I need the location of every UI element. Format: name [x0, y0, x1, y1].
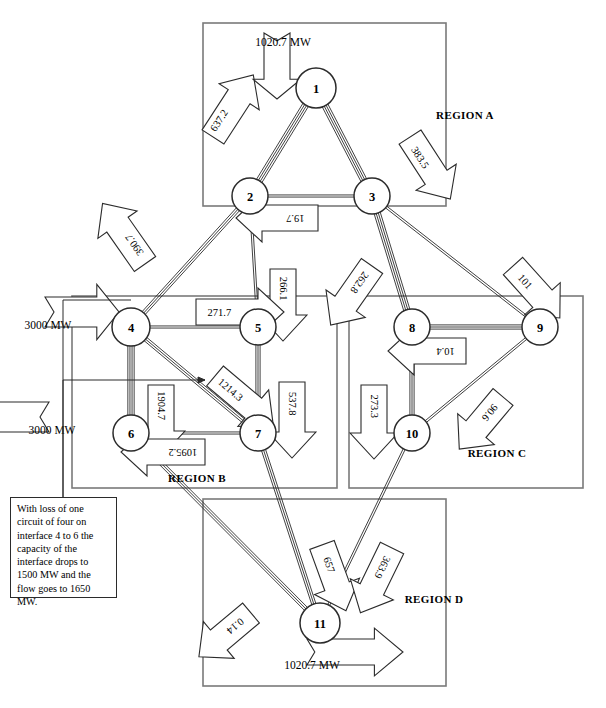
bus-node-8[interactable]: 8	[394, 309, 430, 345]
bus-number-label: 7	[255, 427, 261, 441]
boundary-flow-label-export-6: 3000 MW	[29, 424, 76, 436]
transmission-lines-layer	[128, 103, 528, 611]
bus-node-2[interactable]: 2	[232, 178, 268, 214]
circuit-line	[374, 213, 404, 311]
bus-number-label: 5	[255, 321, 261, 335]
transmission-branch-8-9	[429, 325, 523, 329]
transmission-branch-1-3	[322, 103, 367, 182]
circuit-line	[380, 211, 410, 309]
power-system-diagram: 637.2383.519.7390.7266.1262.8101271.7121…	[0, 0, 606, 708]
flow-value-9-to-8: 10.4	[436, 346, 455, 357]
circuit-line	[328, 103, 367, 179]
bus-node-7[interactable]: 7	[240, 415, 276, 451]
circuit-line	[256, 103, 303, 180]
arrow-shape	[339, 538, 414, 624]
bus-number-label: 9	[537, 321, 543, 335]
circuit-line	[258, 104, 305, 181]
transmission-branch-4-5	[149, 326, 241, 328]
flow-arrow-1-to-2	[193, 62, 273, 150]
bus-number-label: 6	[128, 427, 134, 441]
flow-value-text: 266.1	[278, 277, 289, 301]
bus-number-label: 8	[409, 321, 415, 335]
bus-number-label: 3	[369, 190, 375, 204]
flow-arrow-1-to-3	[390, 124, 470, 212]
region-label-d: REGION D	[405, 593, 464, 605]
boundary-flow-label-inject-1: 1020.7 MW	[255, 36, 311, 48]
contingency-note-text: With loss of one circuit of four on inte…	[17, 503, 93, 607]
flow-value-text: 19.7	[286, 213, 304, 224]
arrow-shape	[193, 62, 273, 150]
flow-value-text: 273.3	[369, 394, 380, 418]
bus-node-4[interactable]: 4	[112, 308, 150, 346]
flow-value-8-to-10: 273.3	[369, 394, 380, 418]
flow-value-text: 1904.7	[156, 391, 167, 420]
flow-arrow-6-to-11	[184, 595, 267, 675]
circuit-line	[261, 450, 312, 606]
bus-node-11[interactable]: 11	[300, 603, 340, 643]
region-label-a: REGION A	[436, 109, 494, 121]
flow-arrow-10-to-11	[339, 538, 414, 624]
transmission-branch-7-11	[261, 449, 316, 606]
circuit-line	[322, 106, 361, 182]
boundary-flow-import-4	[45, 284, 119, 339]
circuit-line	[385, 207, 526, 317]
flow-arrow-2-to-4	[83, 190, 165, 278]
circuit-line	[260, 105, 307, 182]
flow-value-5-to-7: 537.8	[287, 392, 298, 416]
boundary-arrow-shape	[45, 284, 119, 339]
transmission-branch-1-2	[256, 103, 309, 184]
boundary-flow-label-export-11: 1020.7 MW	[284, 659, 340, 671]
flow-value-text: 1095.2	[168, 447, 197, 458]
circuit-line	[262, 106, 309, 183]
bus-number-label: 10	[406, 427, 419, 441]
flow-value-text: 10.4	[436, 346, 455, 357]
bus-number-label: 1	[313, 82, 319, 96]
flow-value-3-to-2: 19.7	[286, 213, 304, 224]
circuit-line	[144, 444, 308, 608]
flow-value-text: 271.7	[208, 307, 232, 318]
circuit-line	[263, 449, 314, 605]
boundary-flow-export-6	[0, 389, 49, 444]
bus-number-label: 11	[314, 617, 326, 631]
circuit-line	[143, 209, 238, 314]
flow-value-text: 537.8	[287, 392, 298, 416]
contingency-note: With loss of one circuit of four on inte…	[10, 497, 117, 598]
circuit-line	[326, 104, 365, 180]
arrow-shape	[83, 190, 165, 278]
note-leader-arrowhead	[198, 377, 205, 383]
circuit-line	[324, 105, 363, 181]
transmission-branch-3-9	[385, 206, 527, 318]
circuit-line	[265, 449, 316, 605]
flow-value-4-to-6: 1904.7	[156, 391, 167, 420]
circuit-line	[143, 445, 307, 609]
region-labels-layer: REGION AREGION BREGION CREGION D	[168, 109, 526, 605]
bus-node-3[interactable]: 3	[354, 178, 390, 214]
arrow-shape	[390, 124, 470, 212]
boundary-arrow-shape	[0, 389, 49, 444]
region-label-b: REGION B	[168, 472, 226, 484]
bus-node-6[interactable]: 6	[113, 415, 149, 451]
bus-node-9[interactable]: 9	[522, 309, 558, 345]
bus-node-1[interactable]: 1	[296, 68, 336, 108]
boundary-flow-label-import-4: 3000 MW	[25, 319, 72, 331]
bus-node-5[interactable]: 5	[240, 309, 276, 345]
flow-value-2-to-5: 266.1	[278, 277, 289, 301]
flow-value-7-to-6: 1095.2	[168, 447, 197, 458]
bus-number-label: 2	[247, 190, 253, 204]
arrow-shape	[184, 595, 267, 675]
flow-value-4-to-5: 271.7	[208, 307, 232, 318]
region-label-c: REGION C	[468, 447, 527, 459]
transmission-branch-2-3	[267, 195, 355, 197]
bus-number-label: 4	[128, 321, 135, 335]
diagram-canvas: 637.2383.519.7390.7266.1262.8101271.7121…	[0, 0, 606, 708]
transmission-branch-6-11	[142, 444, 309, 611]
bus-node-10[interactable]: 10	[394, 415, 430, 451]
